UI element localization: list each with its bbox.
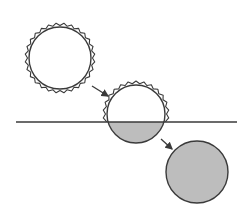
sun-setting-diagram	[0, 0, 249, 215]
arrow-icon	[161, 139, 172, 149]
diagram-canvas	[0, 0, 249, 215]
sun-below-horizon-icon	[166, 141, 228, 203]
sun-setting-icon	[103, 81, 169, 147]
sun-in-sky-icon	[25, 23, 95, 93]
arrow-icon	[92, 86, 108, 96]
